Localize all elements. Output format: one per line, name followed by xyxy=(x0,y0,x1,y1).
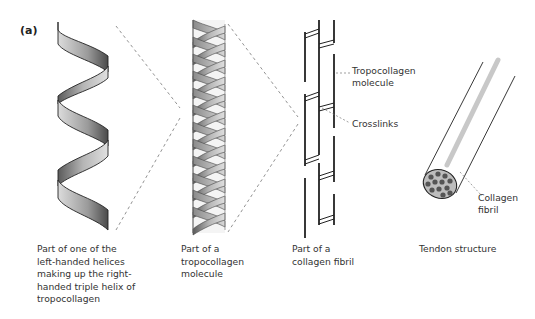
callout-crosslinks: Crosslinks xyxy=(352,118,398,130)
caption-tropocollagen-molecule: Part of a tropocollagen molecule xyxy=(181,243,244,281)
single-helix-ribbon xyxy=(58,22,108,230)
callout-tropocollagen-molecule: Tropocollagen molecule xyxy=(352,65,416,88)
caption-single-helix: Part of one of the left-handed helices m… xyxy=(37,243,135,306)
collagen-fibril-staggered xyxy=(305,20,334,238)
callout-collagen-fibril: Collagen fibril xyxy=(478,192,518,215)
caption-tendon: Tendon structure xyxy=(419,243,496,256)
zoom-connector-2 xyxy=(228,24,298,232)
callout-leaders xyxy=(322,73,482,196)
tendon-cylinder xyxy=(419,60,515,203)
caption-collagen-fibril: Part of a collagen fibril xyxy=(292,243,354,268)
zoom-connector-1 xyxy=(116,26,180,230)
tropocollagen-triple-helix xyxy=(193,20,225,235)
